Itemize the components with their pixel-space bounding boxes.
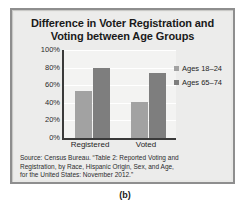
legend-swatch-icon <box>174 66 179 71</box>
legend-swatch-icon <box>174 80 179 85</box>
legend-item[interactable]: Ages 18–24 <box>174 64 232 73</box>
gridline <box>64 50 176 51</box>
chart-title: Difference in Voter Registration and Vot… <box>20 17 225 43</box>
plot-area <box>62 50 176 140</box>
x-axis-tick: Registered <box>62 140 118 149</box>
y-axis-tick: 0% <box>22 134 60 142</box>
y-axis-tick: 100% <box>22 46 60 54</box>
y-axis-tick: 60% <box>22 81 60 89</box>
bar <box>131 102 148 138</box>
y-axis-tick: 20% <box>22 116 60 124</box>
source-note: Source: Census Bureau. “Table 2: Reporte… <box>20 154 226 180</box>
figure-container: Difference in Voter Registration and Vot… <box>0 0 250 211</box>
legend-label: Ages 65–74 <box>182 78 222 87</box>
figure-caption: (b) <box>0 190 250 200</box>
chart-inner: Difference in Voter Registration and Vot… <box>14 12 231 180</box>
source-note-line: Source: Census Bureau. “Table 2: Reporte… <box>20 154 226 163</box>
bar <box>93 68 110 138</box>
chart-title-line-2: Voting between Age Groups <box>20 30 225 43</box>
y-axis-tick-labels: 100%80%60%40%20%0% <box>18 46 60 142</box>
bar <box>149 73 166 138</box>
source-note-line: Registration, by Race, Hispanic Origin, … <box>20 163 226 172</box>
gridline <box>64 68 176 69</box>
bar <box>75 91 92 138</box>
legend-label: Ages 18–24 <box>182 64 222 73</box>
chart-legend: Ages 18–24Ages 65–74 <box>174 64 232 92</box>
y-axis-tick: 80% <box>22 64 60 72</box>
legend-item[interactable]: Ages 65–74 <box>174 78 232 87</box>
x-axis-tick-labels: RegisteredVoted <box>62 140 174 152</box>
y-axis-tick: 40% <box>22 99 60 107</box>
chart-frame: Difference in Voter Registration and Vot… <box>10 8 235 184</box>
source-note-line: for the United States: November 2012.” <box>20 171 226 180</box>
x-axis-tick: Voted <box>118 140 174 149</box>
chart-title-line-1: Difference in Voter Registration and <box>20 17 225 30</box>
